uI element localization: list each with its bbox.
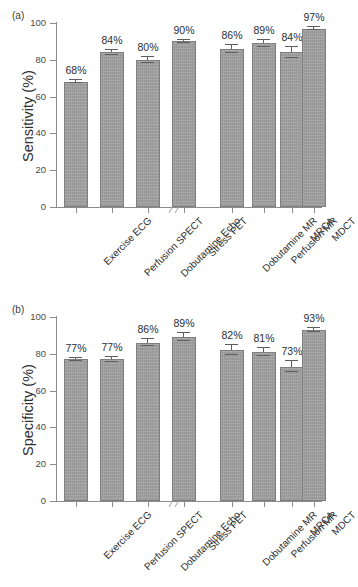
bar-texture [137, 344, 159, 500]
bar[interactable] [280, 367, 304, 501]
bar-value-label: 77% [89, 341, 135, 353]
error-bar-cap [285, 46, 298, 47]
y-axis-tick-label: 80 [12, 54, 46, 65]
error-bar-cap [105, 49, 118, 50]
bar-group[interactable]: 77% [64, 317, 88, 501]
x-axis-spine [56, 501, 322, 502]
x-axis-tick [292, 208, 293, 213]
x-axis-tick [76, 502, 77, 507]
y-axis-tick [50, 207, 56, 208]
error-bar [263, 40, 264, 44]
bar[interactable] [136, 343, 160, 501]
y-axis-tick-label: 100 [12, 17, 46, 28]
error-bar [111, 50, 112, 52]
error-bar [147, 339, 148, 343]
error-bar-cap [307, 327, 320, 328]
bar-group[interactable]: 84% [280, 23, 304, 207]
x-axis-tick [292, 502, 293, 507]
error-bar [183, 333, 184, 337]
bar[interactable] [220, 49, 244, 207]
panel-sensitivity: (a) Sensitivity (%) 020406080100 68%84%8… [0, 0, 331, 293]
bar[interactable] [64, 359, 88, 501]
error-bar-cap [177, 340, 190, 341]
bar-group[interactable]: 82% [220, 317, 244, 501]
error-bar-cap [257, 46, 270, 47]
error-bar-cap [141, 62, 154, 63]
error-bar-cap [307, 331, 320, 332]
error-bar-cap [69, 357, 82, 358]
bar-group[interactable]: 86% [220, 23, 244, 207]
error-bar [313, 328, 314, 330]
x-axis-tick [148, 208, 149, 213]
bar[interactable] [172, 337, 196, 501]
error-bar-cap [105, 361, 118, 362]
bar-group[interactable]: 93% [302, 317, 326, 501]
x-axis-tick [184, 502, 185, 507]
error-bar-cap [225, 354, 238, 355]
y-axis-tick-label: 40 [12, 421, 46, 432]
bar[interactable] [220, 350, 244, 501]
plot-area-sensitivity: 68%84%80%90%86%89%84%97% [56, 23, 322, 207]
y-axis-tick-label: 0 [12, 201, 46, 212]
bar[interactable] [252, 352, 276, 501]
bar-group[interactable]: 97% [302, 23, 326, 207]
x-axis-tick [314, 208, 315, 213]
bar-texture [65, 83, 87, 206]
bar-group[interactable]: 80% [136, 23, 160, 207]
bar-texture [303, 331, 325, 500]
bar[interactable] [302, 330, 326, 501]
bar-texture [101, 360, 123, 500]
bar-texture [173, 338, 195, 500]
bar-value-label: 68% [53, 64, 99, 76]
bar[interactable] [100, 359, 124, 501]
bar-texture [65, 360, 87, 500]
error-bar [313, 27, 314, 29]
bar-group[interactable]: 84% [100, 23, 124, 207]
error-bar [111, 357, 112, 360]
error-bar-cap [177, 39, 190, 40]
error-bar [183, 40, 184, 42]
error-bar [291, 361, 292, 367]
error-bar-cap [69, 79, 82, 80]
error-bar-cap [285, 371, 298, 372]
y-axis-tick-label: 100 [12, 311, 46, 322]
bar-value-label: 93% [291, 312, 337, 324]
error-bar-cap [105, 54, 118, 55]
bar[interactable] [100, 52, 124, 207]
error-bar-cap [69, 360, 82, 361]
y-axis-tick-label: 40 [12, 127, 46, 138]
error-bar [147, 57, 148, 60]
bar-texture [303, 30, 325, 206]
bar-group[interactable]: 90% [172, 23, 196, 207]
x-axis-tick [314, 502, 315, 507]
error-bar [231, 345, 232, 350]
bar-group[interactable]: 89% [172, 317, 196, 501]
error-bar-cap [105, 356, 118, 357]
bar-group[interactable]: 68% [64, 23, 88, 207]
y-axis-tick-label: 60 [12, 91, 46, 102]
bar-texture [137, 61, 159, 206]
y-axis-tick-label: 80 [12, 348, 46, 359]
bar[interactable] [252, 43, 276, 207]
bar[interactable] [172, 41, 196, 207]
bar[interactable] [280, 52, 304, 207]
bar-texture [221, 351, 243, 500]
bar-group[interactable]: 77% [100, 317, 124, 501]
y-axis-tick [50, 501, 56, 502]
error-bar-cap [141, 345, 154, 346]
bar[interactable] [64, 82, 88, 207]
error-bar-cap [141, 56, 154, 57]
bar-group[interactable]: 73% [280, 317, 304, 501]
bar[interactable] [302, 29, 326, 207]
y-axis-tick-label: 20 [12, 458, 46, 469]
y-axis-tick-label: 60 [12, 385, 46, 396]
bar-group[interactable]: 86% [136, 317, 160, 501]
error-bar-cap [285, 57, 298, 58]
bar-value-label: 89% [161, 317, 207, 329]
bar[interactable] [136, 60, 160, 207]
x-axis-tick [264, 502, 265, 507]
bar-value-label: 97% [291, 11, 337, 23]
x-axis-tick [112, 208, 113, 213]
bar-group[interactable]: 89% [252, 23, 276, 207]
x-axis-category-label: Exercise ECG [101, 509, 153, 561]
